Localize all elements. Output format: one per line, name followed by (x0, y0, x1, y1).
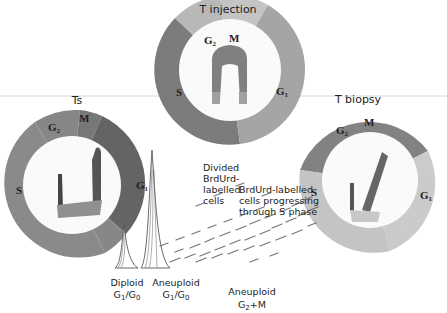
title-t-injection: T injection (198, 3, 256, 16)
seg-s: S (176, 86, 182, 98)
svg-text:BrdUrd-: BrdUrd- (203, 173, 239, 184)
svg-text:cells progressing: cells progressing (239, 195, 319, 206)
svg-text:labelled: labelled (203, 184, 241, 195)
ring-t-biopsy (299, 122, 435, 253)
seg-m: M (364, 116, 375, 128)
ring-t-injection (154, 0, 305, 145)
svg-text:G1/G0: G1/G0 (163, 289, 190, 302)
annotation-diploid: Diploid G1/G0 (110, 277, 143, 302)
annotation-divided: Divided BrdUrd- labelled cells (203, 162, 241, 206)
title-t-biopsy: T biopsy (334, 93, 382, 106)
cell-cycle-diagram: T injection G2 M G1 S Ts G2 M G1 S (0, 0, 447, 313)
svg-text:Diploid: Diploid (110, 277, 143, 288)
svg-text:cells: cells (203, 195, 224, 206)
svg-text:BrdUrd-labelled: BrdUrd-labelled (239, 184, 313, 195)
annotation-aneuploid-g2m: Aneuploid G2+M (228, 286, 276, 312)
seg-m: M (229, 32, 240, 44)
svg-text:Aneuploid: Aneuploid (228, 286, 276, 297)
seg-s: S (16, 184, 22, 196)
annotation-progressing: BrdUrd-labelled cells progressing throug… (239, 184, 319, 217)
svg-text:G1/G0: G1/G0 (114, 289, 141, 302)
svg-text:G2+M: G2+M (238, 299, 266, 312)
annotation-aneuploid-g1: Aneuploid G1/G0 (152, 277, 200, 302)
svg-text:through S phase: through S phase (239, 206, 317, 217)
seg-m: M (79, 112, 90, 124)
svg-text:Divided: Divided (203, 162, 239, 173)
title-ts: Ts (71, 94, 83, 107)
seg-g1: G1 (136, 179, 149, 193)
svg-text:Aneuploid: Aneuploid (152, 277, 200, 288)
